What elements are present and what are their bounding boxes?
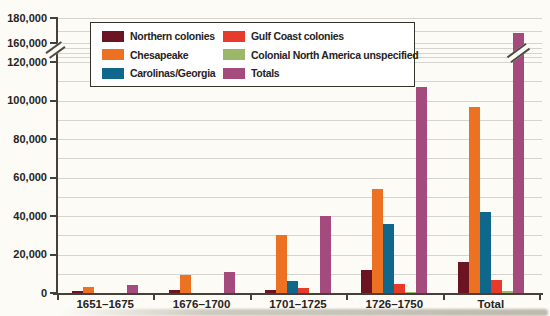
legend-label: Totals — [251, 67, 279, 79]
y-axis-tick — [50, 254, 57, 256]
chesapeake-swatch-icon — [102, 49, 124, 60]
bar-3-4 — [491, 280, 502, 294]
y-axis-tick — [50, 138, 57, 140]
x-axis-tick — [250, 294, 252, 300]
bar-1-2 — [276, 235, 287, 293]
y-tick-label: 80,000 — [0, 133, 47, 146]
y-tick-label: 20,000 — [0, 248, 47, 261]
y-tick-label: 160,000 — [0, 37, 47, 50]
legend-label: Gulf Coast colonies — [251, 30, 344, 42]
bar-3-3 — [394, 284, 405, 293]
x-tick-label: Total — [443, 298, 539, 310]
y-tick-label: 40,000 — [0, 210, 47, 223]
legend-label: Northern colonies — [130, 30, 215, 42]
legend-item: Totals — [223, 67, 418, 79]
gridline — [57, 101, 542, 102]
bar-5-0 — [127, 285, 138, 293]
y-tick-label: 60,000 — [0, 171, 47, 184]
y-axis-tick — [50, 177, 57, 179]
y-axis-tick — [50, 215, 57, 217]
unspecified-swatch-icon — [223, 49, 245, 60]
bar-5-3 — [416, 87, 427, 293]
legend-label: Chesapeake — [130, 49, 188, 61]
legend-item: Gulf Coast colonies — [223, 30, 418, 42]
scan-shadow — [60, 309, 548, 316]
bar-5-1 — [224, 272, 235, 293]
y-axis-tick — [50, 100, 57, 102]
bar-5-4 — [513, 33, 524, 293]
y-tick-label: 100,000 — [0, 94, 47, 107]
gulf-coast-swatch-icon — [223, 31, 245, 42]
bar-1-1 — [180, 275, 191, 293]
y-tick-label: 120,000 — [0, 56, 47, 69]
legend-label: Carolinas/Georgia — [130, 67, 215, 79]
bar-2-4 — [480, 212, 491, 293]
bar-4-4 — [502, 291, 513, 293]
carolinas-georgia-swatch-icon — [102, 68, 124, 79]
bar-2-3 — [383, 224, 394, 293]
bar-4-3 — [405, 292, 416, 293]
bar-0-4 — [458, 262, 469, 293]
legend-column-2: Gulf Coast colonies Colonial North Ameri… — [223, 30, 418, 79]
y-tick-label: 180,000 — [0, 12, 47, 25]
x-tick-label: 1701–1725 — [250, 298, 346, 310]
bar-1-3 — [372, 189, 383, 293]
legend-item: Northern colonies — [102, 30, 223, 42]
x-axis-tick — [153, 294, 155, 300]
y-axis-line — [56, 17, 58, 294]
legend-item: Carolinas/Georgia — [102, 67, 223, 79]
bar-5-2 — [320, 216, 331, 293]
bar-1-4 — [469, 107, 480, 293]
legend-item: Colonial North America unspecified — [223, 49, 418, 61]
bar-1-0 — [83, 287, 94, 293]
figure: Northern colonies Chesapeake Carolinas/G… — [0, 0, 550, 316]
x-tick-label: 1726–1750 — [346, 298, 442, 310]
y-axis-tick — [50, 17, 57, 19]
bar-0-3 — [361, 270, 372, 293]
x-axis-tick — [539, 294, 541, 300]
x-axis-line — [53, 293, 543, 295]
bar-0-0 — [72, 291, 83, 293]
bar-3-2 — [298, 288, 309, 293]
y-axis-tick — [50, 61, 57, 63]
x-axis-tick — [57, 294, 59, 300]
bar-0-2 — [265, 290, 276, 293]
gridline — [57, 18, 542, 19]
x-tick-label: 1676–1700 — [153, 298, 249, 310]
bar-2-2 — [287, 281, 298, 293]
legend: Northern colonies Chesapeake Carolinas/G… — [90, 22, 415, 87]
totals-swatch-icon — [223, 68, 245, 79]
legend-column-1: Northern colonies Chesapeake Carolinas/G… — [102, 30, 223, 79]
x-tick-label: 1651–1675 — [57, 298, 153, 310]
y-tick-label: 0 — [0, 287, 47, 300]
legend-label: Colonial North America unspecified — [251, 49, 418, 61]
x-axis-tick — [443, 294, 445, 300]
x-axis-tick — [346, 294, 348, 300]
northern-colonies-swatch-icon — [102, 31, 124, 42]
legend-item: Chesapeake — [102, 49, 223, 61]
bar-0-1 — [169, 290, 180, 293]
y-axis-tick — [50, 292, 57, 294]
